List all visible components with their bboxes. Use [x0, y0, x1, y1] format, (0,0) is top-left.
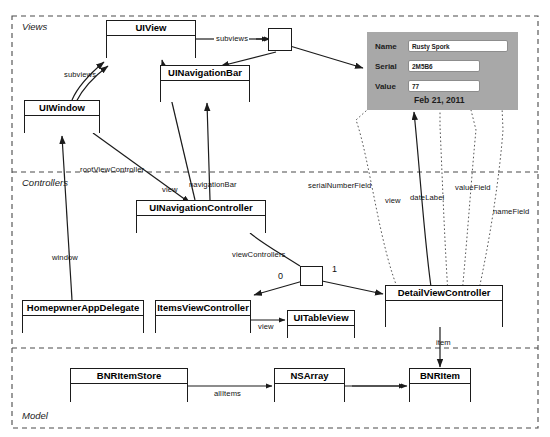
date-label: Feb 21, 2011: [414, 95, 465, 105]
edge-label-allitems: allItems: [214, 389, 241, 398]
class-title-uitableview: UITableView: [288, 311, 354, 326]
edge-label-subviews-top: subviews: [216, 34, 248, 43]
class-body-uinavigationcontroller: [137, 216, 265, 233]
class-title-uinavigationbar: UINavigationBar: [161, 66, 249, 81]
collection-node-viewcontrollers: [300, 266, 323, 286]
class-box-detailviewcontroller[interactable]: DetailViewController: [385, 285, 503, 327]
edge-label-viewcontrollers: viewControllers: [232, 250, 285, 259]
mock-row-name: Name Rusty Spork: [375, 40, 513, 52]
class-body-bnritem: [410, 384, 470, 402]
class-title-uiview: UIView: [107, 21, 195, 36]
edge-label-view-nav: view: [162, 185, 178, 194]
edge-label-view-items: view: [258, 322, 274, 331]
class-box-uiwindow[interactable]: UIWindow: [24, 100, 100, 133]
diagram-canvas: Views Controllers Model UIView UINavigat…: [0, 0, 550, 437]
multiplicity-label-zero: 0: [278, 271, 283, 281]
class-title-detailviewcontroller: DetailViewController: [386, 286, 502, 301]
class-title-bnritem: BNRItem: [410, 369, 470, 384]
class-box-itemsviewcontroller[interactable]: ItemsViewController: [155, 300, 251, 333]
class-title-homepwnerappdelegate: HomepwnerAppDelegate: [23, 301, 143, 316]
mock-row-serial: Serial 2M5B6: [375, 60, 513, 72]
edge-label-navigationbar: navigationBar: [189, 180, 237, 189]
value-field[interactable]: 77: [408, 80, 480, 92]
class-box-homepwnerappdelegate[interactable]: HomepwnerAppDelegate: [22, 300, 144, 333]
class-body-detailviewcontroller: [386, 301, 502, 327]
class-title-bnritemstore: BNRItemStore: [71, 369, 187, 384]
class-title-uinavigationcontroller: UINavigationController: [137, 201, 265, 216]
class-body-uiview: [107, 36, 195, 58]
edge-label-item: item: [436, 338, 451, 347]
class-box-bnritemstore[interactable]: BNRItemStore: [70, 368, 188, 402]
region-label-views: Views: [22, 21, 47, 32]
collection-node-subviews: [268, 28, 292, 51]
edge-label-window: window: [52, 253, 78, 262]
class-title-uiwindow: UIWindow: [25, 101, 99, 116]
region-label-model: Model: [22, 410, 48, 421]
class-box-bnritem[interactable]: BNRItem: [409, 368, 471, 402]
mock-row-value: Value 77: [375, 80, 513, 92]
edge-label-subviews-left: subviews: [64, 70, 96, 79]
region-label-controllers: Controllers: [22, 177, 68, 188]
mock-field-label-value: Value: [375, 82, 408, 91]
edge-label-namefield: nameField: [493, 207, 529, 216]
class-body-itemsviewcontroller: [156, 316, 250, 333]
edge-label-datelabel: dateLabel: [410, 193, 444, 202]
class-body-uinavigationbar: [161, 81, 249, 102]
class-box-uinavigationbar[interactable]: UINavigationBar: [160, 65, 250, 102]
class-title-itemsviewcontroller: ItemsViewController: [156, 301, 250, 316]
mock-field-label-name: Name: [375, 42, 408, 51]
edge-label-rootviewcontroller: rootViewController: [80, 165, 144, 174]
serial-number-field[interactable]: 2M5B6: [408, 60, 480, 72]
detail-view-screenshot: Name Rusty Spork Serial 2M5B6 Value 77 F…: [367, 32, 518, 110]
name-field[interactable]: Rusty Spork: [408, 40, 508, 52]
edge-label-serialnumberfield: serialNumberField: [308, 181, 371, 190]
class-body-homepwnerappdelegate: [23, 316, 143, 333]
class-box-uiview[interactable]: UIView: [106, 20, 196, 58]
class-body-bnritemstore: [71, 384, 187, 402]
class-body-nsarray: [275, 384, 344, 402]
multiplicity-label-one: 1: [332, 264, 337, 274]
class-box-nsarray[interactable]: NSArray: [274, 368, 345, 402]
class-title-nsarray: NSArray: [275, 369, 344, 384]
edge-label-valuefield: valueField: [455, 183, 491, 192]
class-body-uiwindow: [25, 116, 99, 133]
class-box-uinavigationcontroller[interactable]: UINavigationController: [136, 200, 266, 233]
edge-label-view-detail: view: [385, 196, 401, 205]
class-box-uitableview[interactable]: UITableView: [287, 310, 355, 338]
mock-field-label-serial: Serial: [375, 62, 408, 71]
class-body-uitableview: [288, 326, 354, 338]
